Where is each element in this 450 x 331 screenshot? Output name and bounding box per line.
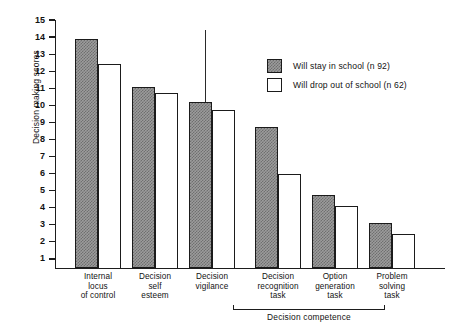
y-axis-tick (49, 122, 55, 123)
y-axis-tick-label: 4 (21, 203, 45, 212)
y-axis-tick-label: 11 (21, 84, 45, 93)
y-axis-tick-label: 3 (21, 220, 45, 229)
y-axis-line (55, 20, 56, 268)
y-axis-tick (49, 105, 55, 106)
y-axis-tick-label: 13 (21, 50, 45, 59)
bar-stay-in-school (312, 195, 335, 268)
y-axis-tick (49, 36, 55, 37)
y-axis-tick-label: 1 (21, 254, 45, 263)
y-axis-tick (49, 207, 55, 208)
y-axis-tick-label: 14 (21, 33, 45, 42)
legend-item-drop-out-of-school: Will drop out of school (n 62) (267, 75, 407, 94)
y-axis-tick-label: 7 (21, 152, 45, 161)
y-axis-tick (49, 139, 55, 140)
decision-competence-bracket-label: Decision competence (233, 312, 385, 322)
bar-drop-out-of-school (98, 64, 121, 267)
category-label-line: Decision (174, 272, 250, 282)
bar-drop-out-of-school (392, 234, 415, 267)
y-axis-tick (49, 19, 55, 20)
y-axis-tick-label: 9 (21, 118, 45, 127)
category-label-line: solving (354, 282, 430, 292)
y-axis-tick-label: 6 (21, 169, 45, 178)
y-axis-tick (49, 241, 55, 242)
x-axis-category-label: Decisionvigilance (174, 272, 250, 291)
bar-chart-figure: Decision making scores 15141312111098765… (0, 0, 450, 331)
legend-swatch-filled-icon (267, 59, 282, 73)
x-axis-line (55, 268, 445, 269)
bar-stay-in-school (255, 127, 278, 268)
x-axis-category-label: Problemsolvingtask (354, 272, 430, 301)
bar-drop-out-of-school (155, 93, 178, 267)
y-axis-tick (49, 71, 55, 72)
y-axis-tick-label: 5 (21, 186, 45, 195)
decision-competence-bracket (233, 305, 385, 310)
y-axis-tick (49, 88, 55, 89)
chart-legend: Will stay in school (n 92) Will drop out… (267, 56, 407, 94)
y-axis-tick (49, 224, 55, 225)
legend-label-drop-out-of-school: Will drop out of school (n 62) (293, 80, 407, 90)
category-label-line: esteem (117, 291, 193, 301)
y-axis-tick (49, 156, 55, 157)
y-axis-tick (49, 258, 55, 259)
bar-stay-in-school (369, 223, 392, 267)
y-axis-tick (49, 173, 55, 174)
bar-drop-out-of-school (212, 110, 235, 268)
y-axis-tick-label: 12 (21, 67, 45, 76)
y-axis-tick-label: 8 (21, 135, 45, 144)
bar-drop-out-of-school (335, 206, 358, 267)
bar-stay-in-school (75, 39, 98, 268)
category-label-line: task (354, 291, 430, 301)
y-axis-tick-label: 10 (21, 101, 45, 110)
category-label-line: vigilance (174, 282, 250, 292)
y-axis-tick-label: 2 (21, 237, 45, 246)
category-label-line: Problem (354, 272, 430, 282)
y-axis-tick (49, 190, 55, 191)
bar-stay-in-school (132, 87, 155, 268)
bar-drop-out-of-school (278, 174, 301, 267)
legend-label-stay-in-school: Will stay in school (n 92) (293, 61, 390, 71)
legend-item-stay-in-school: Will stay in school (n 92) (267, 56, 407, 75)
y-axis-tick-label: 15 (21, 16, 45, 25)
y-axis-tick (49, 54, 55, 55)
bar-stay-in-school (189, 102, 212, 268)
legend-swatch-open-icon (267, 78, 282, 92)
